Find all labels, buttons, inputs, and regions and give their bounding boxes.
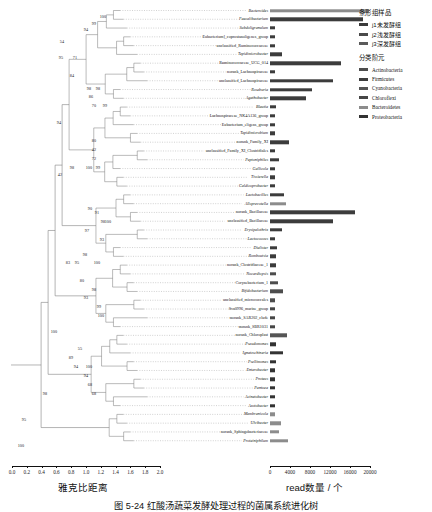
taxon-label: norank_Family_XI <box>237 140 268 144</box>
bar <box>270 237 275 240</box>
axis-tick-label: 1.4 <box>112 469 118 475</box>
bootstrap-value: 98 <box>43 391 47 396</box>
taxon-label: norank_Lachnospiraceae <box>227 70 268 74</box>
axis-tick-label: 0.2 <box>24 469 30 475</box>
legend-swatch-icon <box>359 42 368 45</box>
taxon-label: Roseburia <box>251 87 268 91</box>
bar <box>270 360 276 363</box>
axis-tick-label: 0.4 <box>38 469 44 475</box>
bootstrap-value: 42 <box>92 147 96 152</box>
bar <box>270 202 286 205</box>
axis-tick <box>310 466 311 468</box>
bootstrap-value: 91 <box>95 210 99 215</box>
bar <box>270 263 276 266</box>
taxon-label: norank_Sphingobacteriaceae <box>221 430 268 434</box>
legend-sample-title: 条形组样品 <box>359 8 401 17</box>
axis-tick-label: 16000 <box>344 469 357 475</box>
taxon-label: Corynebacterium_1 <box>235 281 268 285</box>
bar <box>270 334 287 337</box>
legend-item: j3深发酵组 <box>359 39 401 48</box>
taxon-label: Caldicoprobacter <box>239 184 268 188</box>
bootstrap-value: 98 <box>96 86 100 91</box>
bar <box>270 79 333 82</box>
axis-tick-label: 0 <box>269 469 272 475</box>
taxon-label: Eubacterium]_coprostanoligenes_group <box>203 35 268 39</box>
taxon-label: Proteiniphilum <box>243 439 268 443</box>
bootstrap-value: 80 <box>80 278 84 283</box>
bar <box>270 351 283 354</box>
bar <box>270 220 333 223</box>
legend-item: Actinobacteria <box>359 65 403 74</box>
legend-item: Bacteroidetes <box>359 103 403 112</box>
legend-item-label: Bacteroidetes <box>372 104 400 110</box>
legend-swatch-icon <box>359 106 368 109</box>
axis-tick-label: 1.0 <box>83 469 89 475</box>
bootstrap-value: 100 <box>100 14 106 19</box>
legend-item-label: j1未发酵组 <box>372 20 401 29</box>
bar <box>270 140 289 143</box>
bootstrap-value: 95 <box>59 55 63 60</box>
taxon-label: Lactobacillus <box>246 193 268 197</box>
legend-item-label: Cyanobacteria <box>372 85 402 91</box>
bar-axis-title: read数量 / 个 <box>286 480 343 494</box>
bar <box>270 105 276 108</box>
bar <box>270 369 275 372</box>
taxon-label: norank_SBR1031 <box>239 325 268 329</box>
legend-swatch-icon <box>359 87 368 90</box>
tree-axis-title: 雅克比距离 <box>58 480 108 494</box>
bar <box>270 167 275 170</box>
bar <box>270 281 278 284</box>
axis-tick <box>71 466 72 468</box>
bar <box>270 53 282 56</box>
taxon-label: Romboutsia <box>248 254 268 258</box>
bootstrap-value: 100 <box>86 165 92 170</box>
axis-tick-label: 4000 <box>285 469 295 475</box>
bar <box>270 123 275 126</box>
bootstrap-value: 83 <box>66 260 70 265</box>
bar <box>270 325 275 328</box>
legend-item: Cyanobacteria <box>359 84 403 93</box>
legend-item: j2浅发酵组 <box>359 29 401 38</box>
bootstrap-value: 68 <box>88 382 92 387</box>
bar <box>270 18 363 21</box>
axis-tick-label: 0.8 <box>68 469 74 475</box>
axis-tick <box>27 466 28 468</box>
bootstrap-value: 99 <box>103 103 107 108</box>
legend-swatch-icon <box>359 33 368 36</box>
bar <box>270 193 284 196</box>
bootstrap-value: 54 <box>60 39 64 44</box>
taxon-label: Enterobacter <box>247 368 268 372</box>
taxon-label: Erysipelothrix <box>245 228 268 232</box>
bar <box>270 246 277 249</box>
legend-item-label: Chloroflexi <box>372 95 396 101</box>
bootstrap-value: 99 <box>92 21 96 26</box>
taxon-label: Alloprevotella <box>245 202 268 206</box>
taxon-label: Gallicola <box>253 166 268 170</box>
legend-swatch-icon <box>359 68 368 71</box>
bootstrap-value: 93 <box>100 237 104 242</box>
taxon-label: Bifidobacterium <box>241 289 268 293</box>
bar <box>270 439 288 442</box>
axis-tick-label: 1.6 <box>127 469 133 475</box>
bar <box>270 228 282 231</box>
legend-swatch-icon <box>359 115 368 118</box>
axis-tick <box>130 466 131 468</box>
taxon-label: Tepidimicrobium <box>240 131 268 135</box>
axis-tick-label: 0.0 <box>9 469 15 475</box>
axis-tick-label: 0.6 <box>53 469 59 475</box>
bar <box>270 307 275 310</box>
taxon-label: Faecalibacterium <box>239 17 268 21</box>
taxon-label: Pseudomonas <box>245 342 268 346</box>
bootstrap-value: 98 <box>92 287 96 292</box>
axis-tick <box>290 466 291 468</box>
bar <box>270 299 275 302</box>
bar <box>270 149 275 152</box>
legend-item-label: j2浅发酵组 <box>372 30 401 39</box>
bootstrap-value: 98 <box>70 165 74 170</box>
taxon-label: norank_Chloroplast <box>235 333 268 337</box>
legend-sample: 条形组样品 j1未发酵组j2浅发酵组j3深发酵组 <box>359 8 401 48</box>
bar <box>270 342 276 345</box>
taxon-label: unclassified_micrococcales <box>223 298 268 302</box>
bootstrap-value: 100 <box>105 219 111 224</box>
axis-tick-label: 2.0 <box>157 469 163 475</box>
